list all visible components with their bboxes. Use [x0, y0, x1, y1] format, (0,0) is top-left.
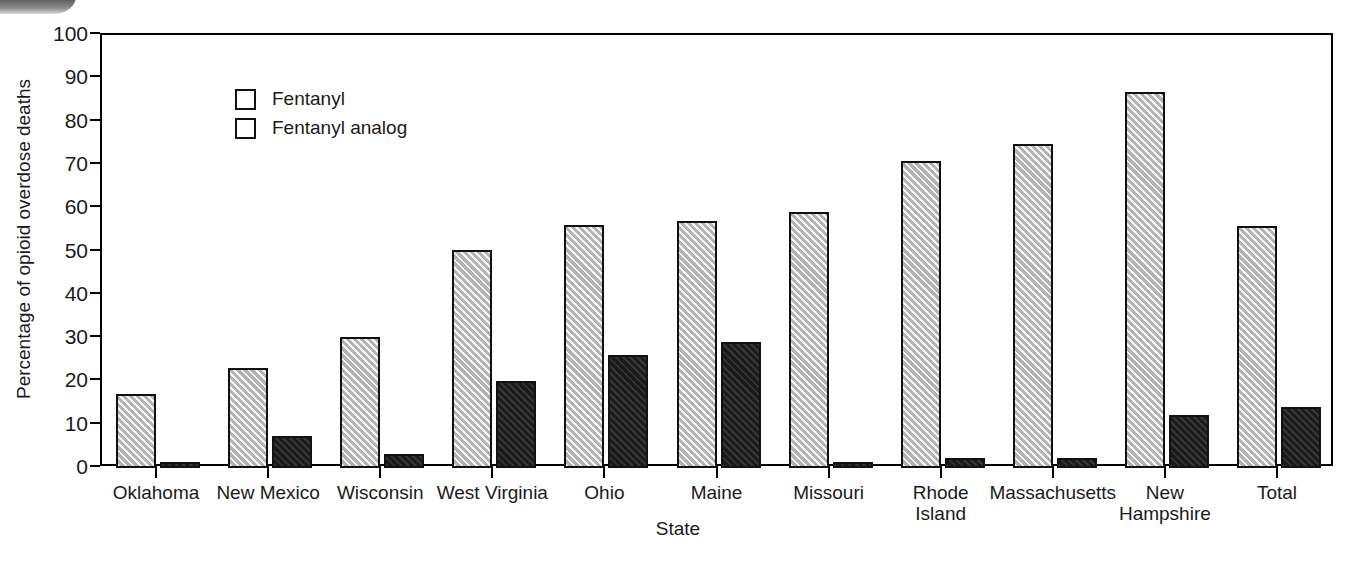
x-tick-mark	[716, 466, 718, 478]
bar-fentanyl-analog	[160, 462, 200, 468]
bar-fentanyl	[1237, 226, 1277, 468]
bar-fentanyl	[228, 368, 268, 468]
bar-fentanyl-analog	[1281, 407, 1321, 468]
y-tick-mark	[90, 249, 100, 251]
bar-fentanyl	[901, 161, 941, 468]
y-tick-label: 10	[42, 412, 88, 433]
y-tick-mark	[90, 119, 100, 121]
y-tick-mark	[90, 162, 100, 164]
y-tick-label: 40	[42, 282, 88, 303]
legend-swatch-fentanyl-icon	[235, 89, 256, 110]
bar-fentanyl	[789, 212, 829, 468]
y-tick-mark	[90, 378, 100, 380]
y-tick-label: 70	[42, 152, 88, 173]
y-tick-mark	[90, 75, 100, 77]
bar-fentanyl-analog	[384, 454, 424, 468]
legend-item-fentanyl: Fentanyl	[235, 88, 407, 110]
legend-item-fentanyl-analog: Fentanyl analog	[235, 117, 407, 139]
y-tick-mark	[90, 205, 100, 207]
y-tick-label: 20	[42, 369, 88, 390]
bar-fentanyl	[452, 250, 492, 468]
x-tick-mark	[1164, 466, 1166, 478]
y-tick-mark	[90, 422, 100, 424]
x-tick-label: West Virginia	[437, 482, 548, 503]
bar-fentanyl-analog	[721, 342, 761, 468]
y-tick-mark	[90, 32, 100, 34]
y-tick-label: 100	[42, 23, 88, 44]
x-tick-mark	[828, 466, 830, 478]
y-tick-mark	[90, 465, 100, 467]
x-tick-mark	[267, 466, 269, 478]
x-tick-mark	[603, 466, 605, 478]
y-tick-label: 0	[42, 456, 88, 477]
x-tick-mark	[155, 466, 157, 478]
scan-artifact	[0, 0, 76, 14]
x-tick-label: Massachusetts	[989, 482, 1116, 503]
bar-fentanyl-analog	[833, 462, 873, 468]
y-axis-title: Percentage of opioid overdose deaths	[13, 4, 35, 474]
x-tick-mark	[491, 466, 493, 478]
legend-swatch-fentanyl-analog-icon	[235, 118, 256, 139]
legend-label-fentanyl-analog: Fentanyl analog	[272, 117, 407, 139]
x-tick-label: Total	[1257, 482, 1297, 503]
bar-fentanyl	[340, 337, 380, 468]
bar-fentanyl-analog	[945, 458, 985, 468]
bar-fentanyl-analog	[1057, 458, 1097, 468]
y-tick-mark	[90, 292, 100, 294]
x-tick-label: Maine	[691, 482, 743, 503]
x-tick-label: Missouri	[793, 482, 864, 503]
x-tick-mark	[379, 466, 381, 478]
bar-fentanyl	[564, 225, 604, 468]
bar-fentanyl-analog	[608, 355, 648, 468]
x-tick-mark	[1052, 466, 1054, 478]
x-axis-title: State	[0, 518, 1356, 540]
x-tick-mark	[1276, 466, 1278, 478]
y-tick-label: 90	[42, 66, 88, 87]
y-tick-label: 50	[42, 239, 88, 260]
bar-fentanyl	[1125, 92, 1165, 468]
x-tick-mark	[940, 466, 942, 478]
chart-figure: Percentage of opioid overdose deaths 010…	[0, 0, 1356, 562]
x-tick-label: Wisconsin	[337, 482, 424, 503]
bar-fentanyl-analog	[272, 436, 312, 468]
bar-fentanyl	[116, 394, 156, 468]
y-tick-label: 80	[42, 109, 88, 130]
x-tick-label: Ohio	[584, 482, 624, 503]
x-tick-label: Oklahoma	[113, 482, 200, 503]
y-tick-label: 60	[42, 196, 88, 217]
bar-fentanyl	[1013, 144, 1053, 468]
bar-fentanyl	[677, 221, 717, 468]
legend-label-fentanyl: Fentanyl	[272, 88, 345, 110]
chart-legend: Fentanyl Fentanyl analog	[235, 88, 407, 146]
bar-fentanyl-analog	[1169, 415, 1209, 468]
x-tick-label: New Mexico	[216, 482, 319, 503]
plot-area: Fentanyl Fentanyl analog	[100, 33, 1333, 466]
y-tick-label: 30	[42, 326, 88, 347]
bar-fentanyl-analog	[496, 381, 536, 468]
y-tick-mark	[90, 335, 100, 337]
